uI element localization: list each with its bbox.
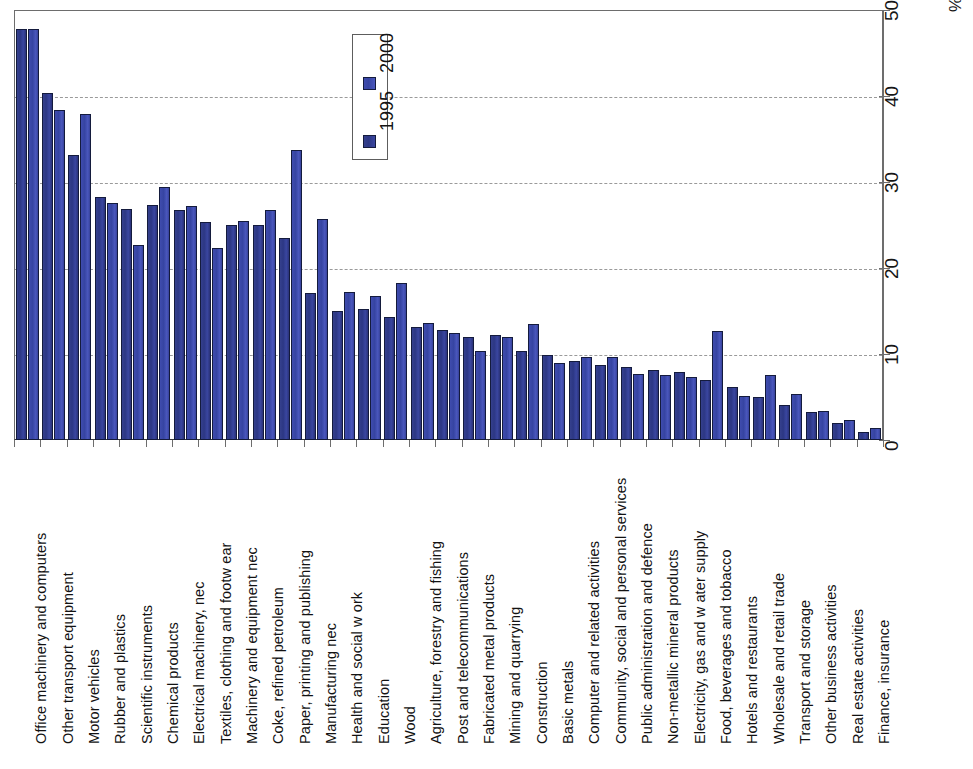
bar-1995: [200, 222, 211, 440]
bar-1995: [95, 197, 106, 440]
x-axis-category-label: Computer and related activities: [586, 541, 602, 744]
bar-group: [411, 10, 437, 440]
bar-1995: [858, 432, 869, 440]
bar-1995: [437, 330, 448, 440]
bar-1995: [490, 335, 501, 440]
bar-1995: [358, 309, 369, 440]
x-axis-tick: [804, 440, 805, 447]
x-axis-category-label: Education: [376, 679, 392, 744]
bar-group: [674, 10, 700, 440]
x-axis-category-label: Wood: [402, 706, 418, 744]
bar-1995: [727, 387, 738, 440]
bar-1995: [700, 380, 711, 440]
bar-1995: [463, 337, 474, 440]
x-axis-tick: [146, 440, 147, 447]
bar-group: [437, 10, 463, 440]
x-axis-tick: [330, 440, 331, 447]
x-axis-tick: [593, 440, 594, 447]
x-axis-tick: [198, 440, 199, 447]
x-axis-category-label: Public administration and defence: [639, 523, 655, 744]
x-axis-tick: [620, 440, 621, 447]
x-axis-category-label: Scientific instruments: [139, 605, 155, 744]
bar-1995: [832, 423, 843, 440]
bar-1995: [569, 361, 580, 440]
bar-2000: [54, 110, 65, 440]
x-axis-tick: [514, 440, 515, 447]
bar-group: [16, 10, 42, 440]
x-axis-tick: [672, 440, 673, 447]
legend-label: 2000: [377, 33, 398, 73]
bar-2000: [265, 210, 276, 440]
x-axis-tick: [830, 440, 831, 447]
bar-group: [779, 10, 805, 440]
bar-group: [832, 10, 858, 440]
x-axis-tick: [725, 440, 726, 447]
x-axis-tick: [699, 440, 700, 447]
legend-label: 1995: [377, 91, 398, 131]
x-axis-tick: [409, 440, 410, 447]
x-axis-tick: [304, 440, 305, 447]
bar-group: [95, 10, 121, 440]
x-axis-tick: [883, 440, 884, 447]
bar-1995: [674, 372, 685, 440]
bar-2000: [686, 377, 697, 440]
y-axis-title: %: [946, 0, 966, 12]
bar-2000: [396, 283, 407, 440]
bar-group: [753, 10, 779, 440]
x-axis-tick: [14, 440, 15, 447]
bar-group: [463, 10, 489, 440]
x-axis-tick: [646, 440, 647, 447]
bar-group: [174, 10, 200, 440]
x-axis-category-label: Rubber and plastics: [112, 614, 128, 744]
x-axis-tick: [778, 440, 779, 447]
bar-2000: [133, 245, 144, 440]
bar-group: [700, 10, 726, 440]
bar-1995: [16, 29, 27, 440]
bar-group: [621, 10, 647, 440]
x-axis-category-label: Chemical products: [165, 622, 181, 744]
bar-2000: [712, 331, 723, 440]
x-axis-category-label: Health and social w ork: [349, 592, 365, 744]
bar-1995: [806, 412, 817, 440]
bar-2000: [186, 206, 197, 440]
x-axis-category-label: Other business activities: [823, 584, 839, 744]
x-axis-category-label: Finance, insurance: [876, 620, 892, 744]
chart-legend: 20001995: [352, 34, 388, 160]
bar-2000: [370, 296, 381, 440]
x-axis-category-label: Wholesale and retail trade: [771, 573, 787, 744]
bar-2000: [212, 248, 223, 440]
x-axis-category-label: Transport and storage: [797, 600, 813, 744]
bar-1995: [621, 367, 632, 440]
bar-group: [384, 10, 410, 440]
bar-1995: [753, 397, 764, 440]
x-axis-category-label: Mining and quarrying: [507, 607, 523, 744]
x-axis-tick: [40, 440, 41, 447]
bar-2000: [502, 337, 513, 440]
bar-2000: [581, 357, 592, 440]
bar-group: [595, 10, 621, 440]
bar-1995: [384, 317, 395, 440]
legend-swatch-1995: [363, 135, 376, 148]
bar-group: [200, 10, 226, 440]
bar-2000: [475, 351, 486, 440]
x-axis-tick: [567, 440, 568, 447]
bar-2000: [159, 187, 170, 440]
bar-2000: [660, 375, 671, 440]
x-axis-category-label: Fabricated metal products: [481, 574, 497, 744]
bar-group: [42, 10, 68, 440]
x-axis-category-label: Textiles, clothing and footw ear: [218, 543, 234, 744]
y-axis-tick-label: 30: [881, 172, 903, 193]
x-axis-category-label: Construction: [534, 661, 550, 744]
bar-1995: [42, 93, 53, 440]
bar-2000: [238, 221, 249, 440]
x-axis-ticks: [14, 440, 883, 448]
bar-2000: [28, 29, 39, 440]
bar-1995: [147, 205, 158, 440]
x-axis-category-label: Post and telecommunications: [455, 552, 471, 744]
x-axis-tick: [462, 440, 463, 447]
x-axis-tick: [225, 440, 226, 447]
bar-group: [648, 10, 674, 440]
x-axis-category-label: Basic metals: [560, 661, 576, 744]
bar-1995: [779, 405, 790, 440]
bar-group: [305, 10, 331, 440]
